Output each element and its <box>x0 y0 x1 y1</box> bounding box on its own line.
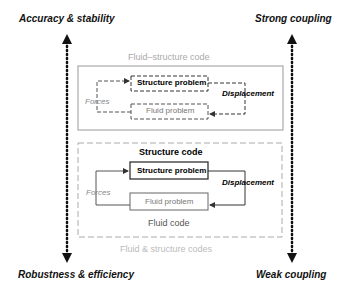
label-weak: Weak coupling <box>256 269 326 280</box>
label-strong: Strong coupling <box>255 13 332 24</box>
mono-displacement: Displacement <box>222 89 274 98</box>
structure-code: Structure code <box>139 147 203 157</box>
mono-forces: Forces <box>85 97 109 106</box>
mono-fluid: Fluid problem <box>146 106 194 115</box>
caption: Fluid & structure codes <box>120 244 212 254</box>
label-robustness: Robustness & efficiency <box>18 269 134 280</box>
mono-structure: Structure problem <box>137 78 206 87</box>
part-forces: Forces <box>86 188 110 197</box>
fsi-code-title: Fluid–structure code <box>128 52 210 62</box>
part-fluid: Fluid problem <box>145 197 193 206</box>
label-accuracy: Accuracy & stability <box>19 13 115 24</box>
fluid-code: Fluid code <box>148 218 190 228</box>
part-displacement: Displacement <box>222 178 274 187</box>
part-structure: Structure problem <box>137 166 206 175</box>
diagram: Accuracy & stability Strong coupling Rob… <box>0 0 343 295</box>
